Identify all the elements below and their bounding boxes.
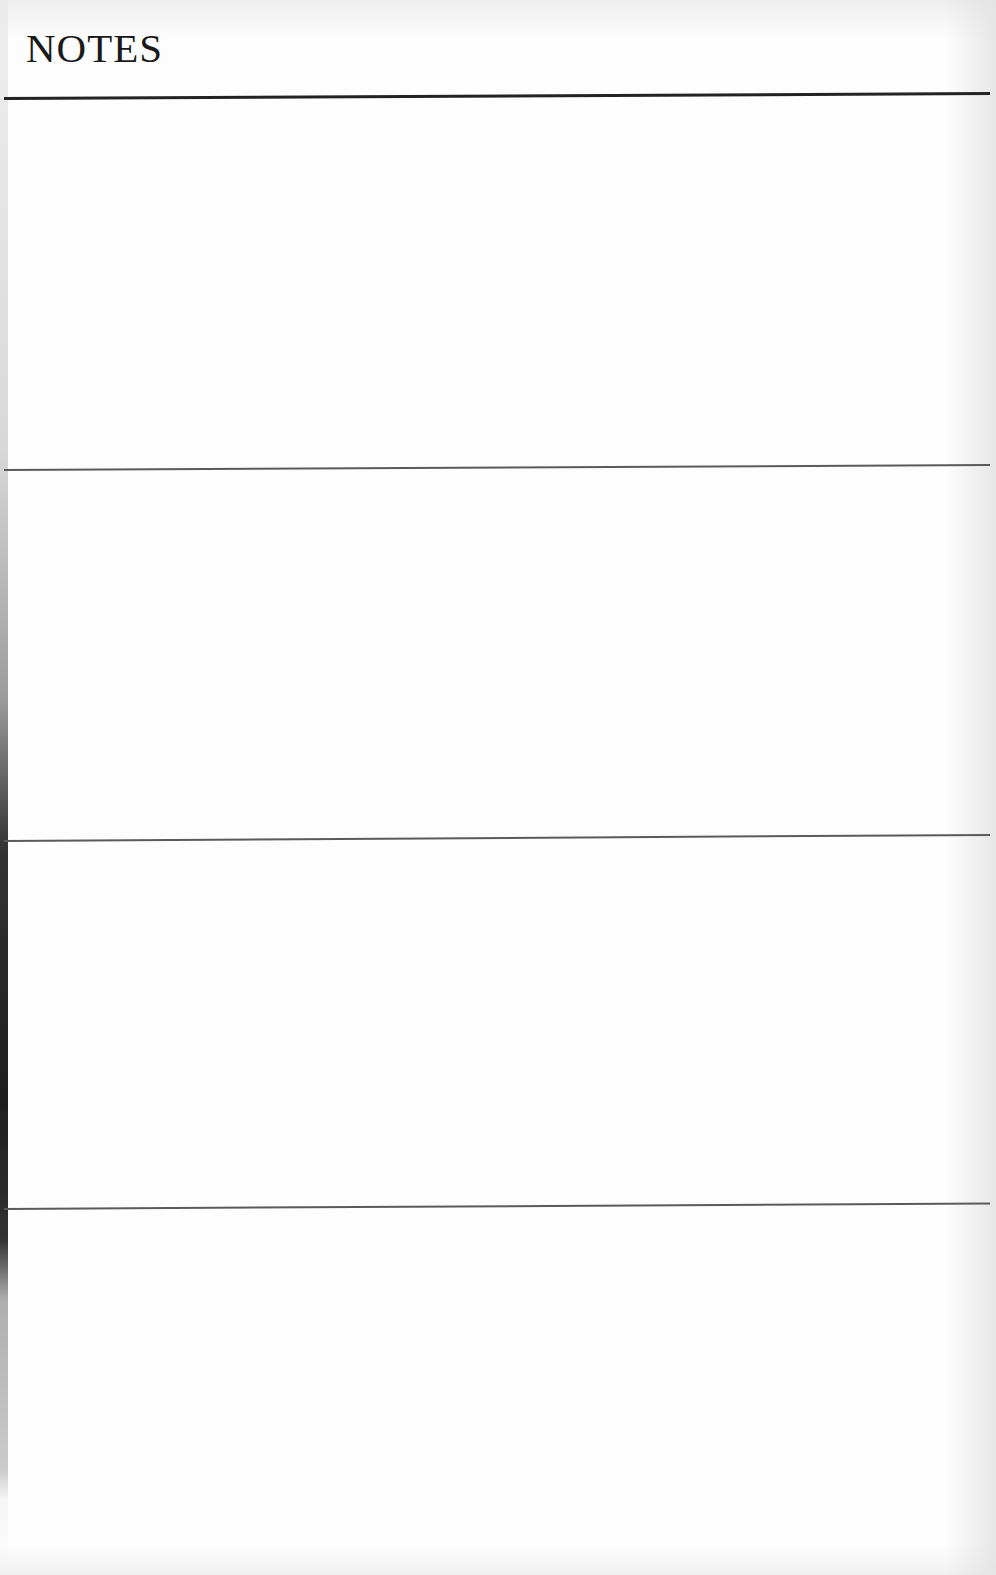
notes-section-4	[8, 1210, 988, 1570]
notes-section-2	[8, 471, 988, 839]
notes-section-3	[8, 842, 988, 1207]
notes-section-1	[8, 100, 988, 468]
page-title: NOTES	[26, 28, 163, 69]
notes-page: NOTES	[0, 0, 996, 1575]
heading-rule	[4, 92, 990, 100]
binding-shadow	[0, 0, 8, 1575]
